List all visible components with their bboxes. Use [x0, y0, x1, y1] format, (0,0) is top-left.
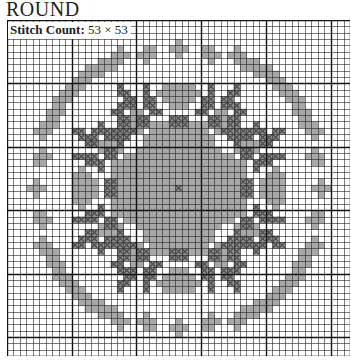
stitch-chart	[7, 20, 350, 356]
stitch-count: Stitch Count: 53 × 53	[8, 22, 131, 39]
stitch-count-value: 53 × 53	[88, 22, 128, 37]
pattern-title: ROUND	[6, 0, 80, 21]
stitch-count-label: Stitch Count:	[10, 22, 85, 37]
stitch-grid-canvas	[7, 20, 350, 356]
